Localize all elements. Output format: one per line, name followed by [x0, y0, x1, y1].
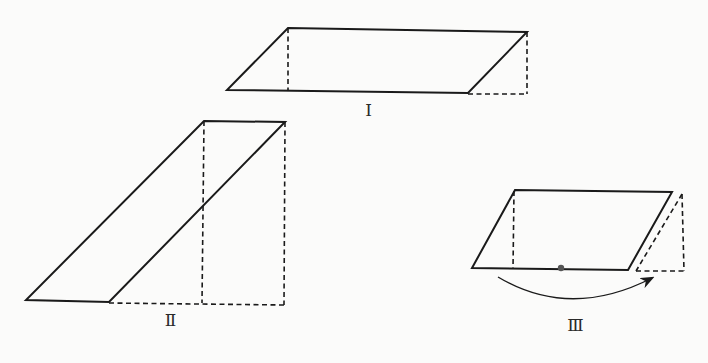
figure-3: [472, 190, 684, 299]
parallelogram-3: [472, 190, 672, 270]
dashed-line: [636, 194, 682, 271]
figure-label-1: Ⅰ: [365, 100, 371, 120]
cut-triangle-lines-3: [513, 191, 684, 271]
dashed-line: [682, 194, 684, 271]
height-lines-1: [288, 28, 527, 94]
parallelogram-2: [26, 121, 285, 302]
figure-2: [26, 121, 285, 305]
figure-label-3: Ⅲ: [567, 315, 582, 335]
rotation-arrow-icon: [498, 277, 652, 299]
dashed-line: [202, 121, 204, 303]
parallelogram-diagram: [0, 0, 708, 363]
pivot-dot: [558, 265, 564, 271]
diagram-canvas: Ⅰ Ⅱ Ⅲ: [0, 0, 708, 363]
dashed-line: [513, 191, 514, 269]
dashed-line: [284, 122, 285, 305]
parallelogram-1: [227, 28, 527, 93]
figure-label-2: Ⅱ: [165, 310, 176, 330]
dashed-line: [109, 303, 284, 305]
figure-1: [227, 28, 527, 94]
